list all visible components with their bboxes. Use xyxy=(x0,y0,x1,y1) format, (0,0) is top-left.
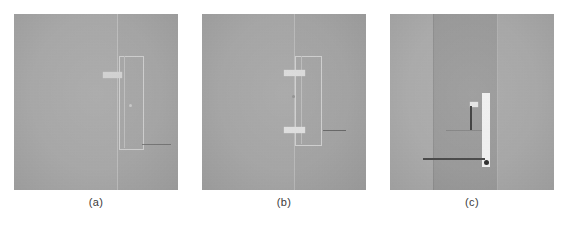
panel-b-caption: (b) xyxy=(202,196,366,208)
panel-b-band-left-region xyxy=(202,14,294,190)
panel-b-image xyxy=(202,14,366,190)
panel-b-upper-ledge xyxy=(284,70,305,76)
panel-c-band-left-grain xyxy=(390,14,433,190)
panel-c-caption: (c) xyxy=(390,196,554,208)
panel-a-band-left-region xyxy=(14,14,117,190)
panel-a-precipitate-dot xyxy=(129,104,132,107)
panel-c-horizontal-arrow xyxy=(423,158,485,160)
panel-a-caption: (a) xyxy=(14,196,178,208)
panel-a-feature-arrow xyxy=(142,144,172,145)
panel-b-lower-ledge xyxy=(284,127,305,133)
panel-b-feature-arrow xyxy=(323,130,346,131)
panel-c-measurement-bracket xyxy=(446,130,482,131)
panel-c-grain-boundary-right xyxy=(497,14,498,190)
panel-a xyxy=(14,14,178,190)
panel-a-upper-ledge xyxy=(103,72,123,78)
panel-c-image xyxy=(390,14,554,190)
panel-c-band-right-grain xyxy=(497,14,554,190)
panel-c-grain-boundary xyxy=(433,14,434,190)
panel-b xyxy=(202,14,366,190)
figure-root: (a) (b) xyxy=(0,0,567,229)
panel-a-image xyxy=(14,14,178,190)
panel-c-vertical-arrow xyxy=(470,106,472,131)
panel-a-implant-outline xyxy=(119,56,144,150)
panel-c xyxy=(390,14,554,190)
panel-c-bright-lamella xyxy=(482,93,490,167)
panel-a-inner-edge xyxy=(124,56,125,148)
